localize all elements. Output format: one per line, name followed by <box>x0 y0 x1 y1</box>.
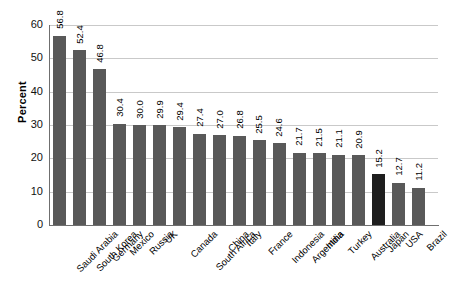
bar-slot[interactable]: 29.4 <box>170 25 190 225</box>
bar-value-label: 26.8 <box>235 109 245 149</box>
bar-value-label: 25.5 <box>255 113 265 153</box>
bar-value-label: 11.2 <box>414 161 424 201</box>
y-tick-label: 60 <box>9 19 43 30</box>
bar-value-label: 29.4 <box>175 100 185 140</box>
bar[interactable] <box>93 69 106 225</box>
y-tick-label: 0 <box>9 219 43 230</box>
x-label-slot: Italy <box>230 227 250 294</box>
x-label-slot: South Africa <box>190 227 210 294</box>
x-label-slot: Russia <box>130 227 150 294</box>
bar-value-label: 56.8 <box>55 9 65 49</box>
bar-slot[interactable]: 11.2 <box>409 25 429 225</box>
bar-slot[interactable]: 56.8 <box>50 25 70 225</box>
bar-slot[interactable]: 21.1 <box>329 25 349 225</box>
x-label-slot: Brazil <box>409 227 429 294</box>
bar-slot[interactable]: 21.7 <box>289 25 309 225</box>
bar-slot[interactable]: 29.9 <box>150 25 170 225</box>
bar[interactable] <box>113 124 126 225</box>
bar[interactable] <box>193 134 206 225</box>
x-label-slot: Mexico <box>110 227 130 294</box>
bar-slot[interactable]: 15.2 <box>369 25 389 225</box>
bar-value-label: 21.7 <box>295 126 305 166</box>
bar-value-label: 46.8 <box>95 42 105 82</box>
bar-value-label: 12.7 <box>394 156 404 196</box>
bar-slot[interactable]: 27.4 <box>190 25 210 225</box>
bar-value-label: 21.1 <box>335 128 345 168</box>
x-label-slot: Turkey <box>329 227 349 294</box>
y-tick-label: 40 <box>9 86 43 97</box>
bar-slot[interactable]: 46.8 <box>90 25 110 225</box>
x-label-slot: UK <box>150 227 170 294</box>
bar-slot[interactable]: 21.5 <box>309 25 329 225</box>
y-tick-label: 30 <box>9 119 43 130</box>
bar-chart: Percent 0102030405060 56.852.446.830.430… <box>0 0 455 294</box>
y-tick-label: 10 <box>9 186 43 197</box>
bar-slot[interactable]: 30.0 <box>130 25 150 225</box>
bar-slot[interactable]: 26.8 <box>230 25 250 225</box>
x-label-slot: France <box>249 227 269 294</box>
x-label-slot: Canada <box>170 227 190 294</box>
x-label-slot: Japan <box>369 227 389 294</box>
bar-slot[interactable]: 12.7 <box>389 25 409 225</box>
bar-slot[interactable]: 27.0 <box>210 25 230 225</box>
x-label-slot: Indonesia <box>269 227 289 294</box>
bar-slot[interactable]: 20.9 <box>349 25 369 225</box>
bar-slot[interactable]: 25.5 <box>249 25 269 225</box>
bar-value-label: 20.9 <box>354 129 364 169</box>
bar-value-label: 27.0 <box>215 108 225 148</box>
bar[interactable] <box>233 136 246 225</box>
bar[interactable] <box>133 125 146 225</box>
bar-value-label: 15.2 <box>374 148 384 188</box>
bar-value-label: 27.4 <box>195 107 205 147</box>
x-axis-line <box>49 225 439 226</box>
bar-slot[interactable]: 52.4 <box>70 25 90 225</box>
y-tick-label: 20 <box>9 152 43 163</box>
y-tick-label: 50 <box>9 52 43 63</box>
bar-value-label: 30.0 <box>135 98 145 138</box>
x-label-slot: South Korea <box>70 227 90 294</box>
bar-slot[interactable]: 30.4 <box>110 25 130 225</box>
x-axis-tick-labels: Saudi ArabiaSouth KoreaGermanyMexicoRuss… <box>49 227 439 294</box>
y-axis-line <box>49 25 50 226</box>
x-label-slot: Saudi Arabia <box>50 227 70 294</box>
x-label-slot: China <box>210 227 230 294</box>
plot-area: 56.852.446.830.430.029.929.427.427.026.8… <box>49 25 438 225</box>
bar-value-label: 24.6 <box>275 116 285 156</box>
x-label-slot: India <box>309 227 329 294</box>
x-label-slot: Australia <box>349 227 369 294</box>
bar[interactable] <box>153 125 166 225</box>
bar-value-label: 30.4 <box>115 97 125 137</box>
bar[interactable] <box>53 36 66 225</box>
x-label-slot: Germany <box>90 227 110 294</box>
bar-value-label: 21.5 <box>315 127 325 167</box>
bar-slot[interactable]: 24.6 <box>269 25 289 225</box>
x-label-slot: Argentina <box>289 227 309 294</box>
bar-value-label: 29.9 <box>155 99 165 139</box>
bar[interactable] <box>73 50 86 225</box>
x-label-slot: USA <box>389 227 409 294</box>
bar-value-label: 52.4 <box>75 24 85 64</box>
bar[interactable] <box>173 127 186 225</box>
